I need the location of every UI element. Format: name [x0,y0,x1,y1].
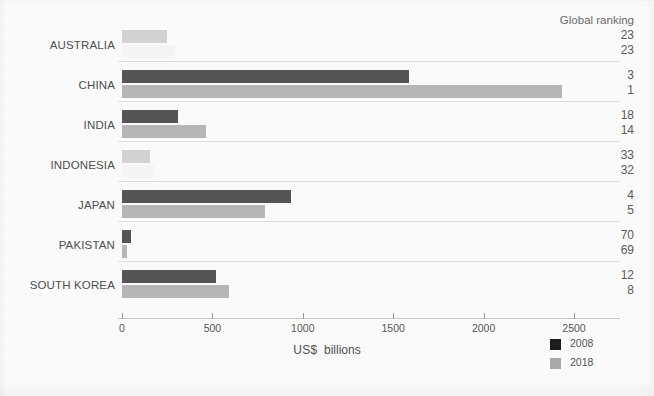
bar-2008 [122,70,409,83]
category-label-south-korea: SOUTH KOREA [30,279,115,291]
row-separator [118,181,620,182]
rank-value-2018: 5 [588,204,634,217]
bar-2008 [122,270,216,283]
x-tick-1000 [303,313,304,319]
x-tick-2000 [484,313,485,319]
row-separator [118,261,620,262]
row-separator [118,61,620,62]
global-ranking-column-header: Global ranking [560,14,634,26]
bar-2018 [122,285,229,298]
bar-2008 [122,150,150,163]
rank-value-2008: 3 [588,69,634,82]
bar-2018 [122,245,127,258]
x-tick-2500 [574,313,575,319]
category-label-india: INDIA [84,119,115,131]
legend-label-2008: 2008 [570,337,593,349]
chart-row: PAKISTAN7069 [0,228,654,262]
row-separator [118,101,620,102]
legend-label-2018: 2018 [570,356,593,368]
chart-row: JAPAN45 [0,188,654,222]
chart-row: INDIA1814 [0,108,654,142]
bar-2018 [122,85,562,98]
x-axis-currency: US$ [293,343,317,357]
x-axis-line [118,318,620,319]
rank-value-2018: 8 [588,284,634,297]
x-tick-1500 [393,313,394,319]
category-label-indonesia: INDONESIA [50,159,115,171]
x-tick-label-2000: 2000 [472,322,495,334]
bar-2008 [122,190,291,203]
bar-2008 [122,230,131,243]
bar-2018 [122,205,265,218]
rank-value-2018: 32 [588,164,634,177]
row-separator [118,221,620,222]
x-tick-label-1000: 1000 [291,322,314,334]
rank-value-2018: 23 [588,44,634,57]
chart-row: INDONESIA3332 [0,148,654,182]
legend-item-2008: 2008 [550,336,636,355]
chart-plot-area: Global ranking AUSTRALIA2323CHINA31INDIA… [0,0,654,396]
chart-row: CHINA31 [0,68,654,102]
bar-2008 [122,110,178,123]
chart-figure: Global ranking AUSTRALIA2323CHINA31INDIA… [0,0,654,396]
x-tick-500 [212,313,213,319]
legend-swatch-2018 [550,358,561,369]
rank-value-2008: 18 [588,109,634,122]
category-label-pakistan: PAKISTAN [59,239,115,251]
rank-value-2008: 70 [588,229,634,242]
legend-swatch-2008 [550,339,561,350]
x-tick-label-0: 0 [119,322,125,334]
rank-value-2008: 12 [588,269,634,282]
rank-value-2018: 14 [588,124,634,137]
x-tick-label-2500: 2500 [562,322,585,334]
x-axis-unit: billions [324,343,361,357]
bar-2008 [122,30,167,43]
x-tick-label-500: 500 [204,322,222,334]
legend-item-2018: 2018 [550,355,636,374]
bar-2018 [122,125,206,138]
chart-row: AUSTRALIA2323 [0,28,654,62]
category-label-japan: JAPAN [78,199,115,211]
x-tick-0 [122,313,123,319]
bar-2018 [122,165,154,178]
category-label-australia: AUSTRALIA [50,39,115,51]
chart-legend: 20082018 [550,336,636,374]
rank-value-2018: 1 [588,84,634,97]
category-label-china: CHINA [78,79,115,91]
rank-value-2018: 69 [588,244,634,257]
rank-value-2008: 33 [588,149,634,162]
bar-2018 [122,45,175,58]
chart-row: SOUTH KOREA128 [0,268,654,302]
row-separator [118,141,620,142]
rank-value-2008: 23 [588,29,634,42]
rank-value-2008: 4 [588,189,634,202]
x-tick-label-1500: 1500 [382,322,405,334]
